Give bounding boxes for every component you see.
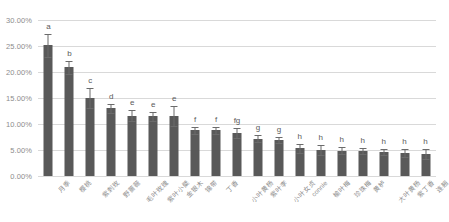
bar-group: g (268, 20, 289, 176)
x-axis-tick-label: 连翘 (435, 180, 449, 194)
significance-letter: h (360, 137, 364, 145)
x-axis-tick-label: 锦带 (204, 180, 218, 194)
y-axis-tick-label: 30.00% (6, 16, 32, 25)
error-bar-cap-top (150, 112, 157, 113)
bars-layer: abcdeeefffggghhhhhhh (38, 20, 436, 176)
error-bar (236, 128, 237, 137)
significance-letter: b (67, 50, 71, 58)
x-axis-tick-label: 榆叶梅 (332, 180, 351, 199)
y-axis-tick-label: 15.00% (6, 94, 32, 103)
error-bar (111, 104, 112, 112)
significance-letter: e (130, 99, 134, 107)
axis-baseline (38, 176, 436, 177)
significance-letter: f (215, 116, 217, 124)
bar (149, 116, 158, 176)
bar-group: d (101, 20, 122, 176)
bar-group: h (289, 20, 310, 176)
bar-group: g (247, 20, 268, 176)
error-bar-cap-top (87, 88, 94, 89)
error-bar-cap-bottom (296, 153, 303, 154)
error-bar-cap-top (401, 149, 408, 150)
error-bar-cap-top (192, 127, 199, 128)
error-bar (404, 149, 405, 157)
bar (253, 139, 262, 176)
error-bar-cap-top (296, 144, 303, 145)
y-axis: 0.00%5.00%10.00%15.00%20.00%25.00%30.00% (0, 0, 36, 222)
bar (358, 151, 367, 176)
bar-group: h (415, 20, 436, 176)
significance-letter: fg (234, 117, 241, 125)
bar-group: h (352, 20, 373, 176)
x-axis-tick-label: 丁香 (225, 180, 239, 194)
error-bar (90, 88, 91, 109)
bar (212, 130, 221, 176)
error-bar-cap-bottom (66, 74, 73, 75)
error-bar-cap-bottom (359, 154, 366, 155)
significance-letter: h (423, 138, 427, 146)
bar (128, 116, 137, 176)
y-axis-tick-label: 5.00% (10, 146, 32, 155)
y-axis-tick-label: 10.00% (6, 120, 32, 129)
error-bar-cap-top (213, 127, 220, 128)
error-bar (48, 34, 49, 58)
error-bar (132, 110, 133, 120)
significance-letter: e (172, 95, 176, 103)
x-axis: 月季樱桃紫刺玫野蔷薇毛叶玫瑰紫叶小檗金银木锦带丁香小叶黄杨紫叶李小叶女贞conn… (38, 178, 436, 222)
error-bar-cap-top (380, 149, 387, 150)
x-axis-tick-label: 黄栌 (372, 180, 386, 194)
error-bar (216, 127, 217, 134)
error-bar-cap-bottom (171, 126, 178, 127)
error-bar-cap-bottom (108, 113, 115, 114)
bar-group: e (143, 20, 164, 176)
significance-letter: a (46, 23, 50, 31)
bar (232, 133, 241, 176)
significance-letter: g (256, 124, 260, 132)
error-bar-cap-bottom (422, 159, 429, 160)
error-bar-cap-bottom (45, 57, 52, 58)
error-bar-cap-bottom (401, 157, 408, 158)
error-bar-cap-bottom (233, 138, 240, 139)
error-bar (195, 127, 196, 134)
bar (44, 45, 53, 176)
y-axis-tick-label: 25.00% (6, 42, 32, 51)
bar (274, 140, 283, 176)
error-bar-cap-bottom (213, 134, 220, 135)
x-axis-tick-label: 紫刺玫 (102, 180, 121, 199)
error-bar-cap-top (171, 106, 178, 107)
error-bar-cap-bottom (275, 143, 282, 144)
error-bar-cap-bottom (317, 155, 324, 156)
bar-group: f (206, 20, 227, 176)
significance-letter: h (381, 138, 385, 146)
significance-letter: h (319, 134, 323, 142)
significance-letter: f (194, 116, 196, 124)
error-bar-cap-top (422, 149, 429, 150)
plot-area: abcdeeefffggghhhhhhh (38, 20, 436, 176)
error-bar-cap-top (317, 145, 324, 146)
y-axis-tick-label: 0.00% (10, 172, 32, 181)
error-bar (299, 144, 300, 152)
error-bar-cap-bottom (338, 154, 345, 155)
significance-letter: h (298, 133, 302, 141)
error-bar-cap-top (129, 110, 136, 111)
bar-group: a (38, 20, 59, 176)
error-bar-cap-top (233, 128, 240, 129)
bar-group: h (331, 20, 352, 176)
error-bar (320, 145, 321, 154)
bar-group: h (394, 20, 415, 176)
significance-letter: e (151, 101, 155, 109)
x-axis-tick-label: 月季 (58, 180, 72, 194)
bar (107, 108, 116, 176)
error-bar-cap-bottom (129, 121, 136, 122)
significance-letter: d (109, 93, 113, 101)
bar-group: c (80, 20, 101, 176)
error-bar (69, 61, 70, 73)
error-bar (174, 106, 175, 126)
bar-group: h (310, 20, 331, 176)
error-bar-cap-bottom (87, 108, 94, 109)
bar-group: h (373, 20, 394, 176)
bar-group: b (59, 20, 80, 176)
error-bar-cap-top (359, 148, 366, 149)
y-axis-tick-label: 20.00% (6, 68, 32, 77)
bar-group: e (122, 20, 143, 176)
